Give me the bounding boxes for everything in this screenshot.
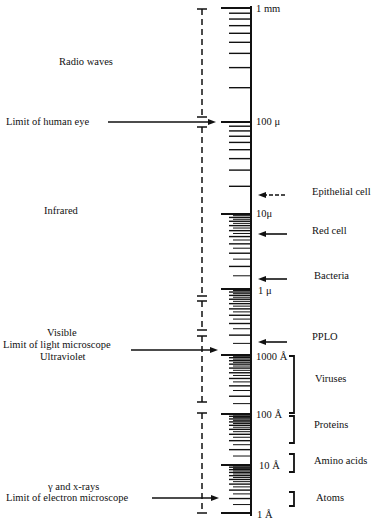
object-viruses: Viruses	[315, 373, 346, 385]
logarithmic-scale	[221, 6, 251, 516]
object-pplo: PPLO	[312, 331, 338, 343]
scale-label-1mm: 1 mm	[256, 3, 280, 15]
band-visible: Visible	[47, 327, 77, 339]
size-scale-diagram	[0, 0, 383, 524]
limit-electron-microscope: Limit of electron microscope	[6, 492, 128, 504]
limit-human-eye: Limit of human eye	[6, 116, 89, 128]
scale-label-100A: 100 Å	[256, 409, 282, 421]
scale-label-1000A: 1000 Å	[256, 351, 287, 363]
object-proteins: Proteins	[314, 419, 348, 431]
band-ultraviolet: Ultraviolet	[40, 351, 86, 363]
object-bacteria: Bacteria	[314, 270, 349, 282]
object-epithelial-cell: Epithelial cell	[312, 186, 371, 198]
band-radio-waves: Radio waves	[59, 56, 113, 68]
band-infrared: Infrared	[44, 205, 78, 217]
scale-label-10mu: 10μ	[256, 208, 272, 220]
size-range-brackets	[289, 356, 294, 506]
scale-label-1A: 1 Å	[257, 509, 272, 521]
limit-light-microscope: Limit of light microscope	[3, 339, 111, 351]
scale-label-1mu: 1 μ	[258, 285, 272, 297]
radiation-band-dashed-line	[197, 9, 207, 513]
object-amino-acids: Amino acids	[314, 455, 367, 467]
object-red-cell: Red cell	[312, 225, 347, 237]
object-atoms: Atoms	[316, 492, 344, 504]
pointer-arrows	[108, 119, 287, 501]
scale-label-10A: 10 Å	[259, 460, 280, 472]
scale-label-100mu: 100 μ	[256, 116, 280, 128]
